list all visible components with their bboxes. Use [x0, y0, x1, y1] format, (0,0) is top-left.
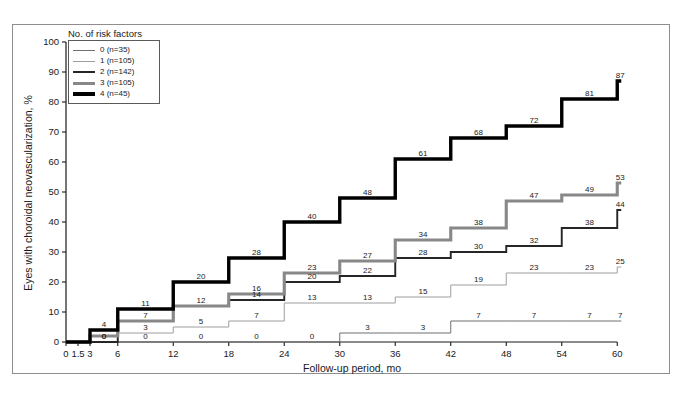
- legend-swatch-icon: [73, 92, 95, 95]
- data-label: 7: [254, 311, 259, 320]
- data-label: 20: [197, 272, 206, 281]
- data-label: 23: [530, 263, 539, 272]
- legend-title: No. of risk factors: [68, 28, 142, 39]
- legend-entry-0: 0 (n=35): [73, 45, 155, 55]
- data-label: 3: [421, 323, 426, 332]
- legend-swatch-icon: [73, 61, 95, 62]
- y-tick-label: 60: [48, 156, 59, 167]
- data-label: 7: [476, 311, 481, 320]
- legend-label: 0 (n=35): [100, 45, 130, 55]
- data-label: 27: [363, 251, 372, 260]
- data-label: 23: [585, 263, 594, 272]
- data-label: 81: [585, 89, 594, 98]
- legend-entry-1: 1 (n=105): [73, 56, 155, 66]
- x-tick-label: 3: [87, 348, 92, 359]
- data-label: 38: [474, 218, 483, 227]
- data-label: 68: [474, 128, 483, 137]
- data-label: 72: [530, 116, 539, 125]
- y-tick-label: 0: [54, 336, 59, 347]
- series-line-0: [66, 321, 621, 342]
- legend-entry-4: 4 (n=45): [73, 89, 155, 99]
- data-label: 22: [363, 266, 372, 275]
- data-label: 28: [252, 248, 261, 257]
- data-label: 3: [365, 323, 370, 332]
- data-label: 47: [530, 191, 539, 200]
- y-tick-label: 20: [48, 276, 59, 287]
- x-tick-label: 54: [556, 348, 567, 359]
- data-label: 61: [419, 149, 428, 158]
- x-tick-label: 0: [63, 348, 68, 359]
- data-label: 19: [474, 275, 483, 284]
- data-label: 4: [102, 320, 107, 329]
- data-labels-layer: 0000033777735713131519232325071214202228…: [102, 71, 626, 341]
- x-tick-label: 18: [223, 348, 234, 359]
- data-label: 0: [199, 332, 204, 341]
- data-label: 20: [308, 272, 317, 281]
- data-label: 32: [530, 236, 539, 245]
- x-tick-label: 30: [334, 348, 345, 359]
- data-label: 13: [363, 293, 372, 302]
- data-label: 7: [587, 311, 592, 320]
- data-label: 15: [419, 287, 428, 296]
- y-tick-label: 50: [48, 186, 59, 197]
- data-label: 0: [143, 332, 148, 341]
- data-label: 44: [616, 200, 625, 209]
- x-tick-label: 24: [279, 348, 290, 359]
- data-label: 7: [143, 311, 148, 320]
- legend-entry-2: 2 (n=142): [73, 67, 155, 77]
- data-label: 13: [308, 293, 317, 302]
- legend-swatch-icon: [73, 50, 95, 51]
- data-label: 0: [310, 332, 315, 341]
- data-label: 0: [102, 332, 107, 341]
- x-tick-label: 42: [445, 348, 456, 359]
- data-label: 7: [618, 311, 623, 320]
- data-label: 38: [585, 218, 594, 227]
- y-tick-label: 40: [48, 216, 59, 227]
- legend-label: 2 (n=142): [100, 67, 134, 77]
- x-tick-label: 6: [115, 348, 120, 359]
- legend-entry-3: 3 (n=105): [73, 78, 155, 88]
- data-label: 0: [254, 332, 259, 341]
- data-label: 87: [616, 71, 625, 80]
- x-tick-label: 60: [612, 348, 623, 359]
- y-tick-label: 70: [48, 126, 59, 137]
- data-label: 53: [616, 173, 625, 182]
- y-tick-label: 80: [48, 96, 59, 107]
- chart-figure: 010203040506070809010001.536121824303642…: [0, 0, 678, 403]
- legend-label: 3 (n=105): [100, 78, 134, 88]
- data-label: 3: [143, 323, 148, 332]
- x-tick-label: 36: [390, 348, 401, 359]
- data-label: 25: [616, 257, 625, 266]
- y-tick-label: 30: [48, 246, 59, 257]
- data-label: 12: [197, 296, 206, 305]
- legend-swatch-icon: [73, 82, 95, 85]
- data-label: 5: [199, 317, 204, 326]
- data-label: 40: [308, 212, 317, 221]
- data-label: 49: [585, 185, 594, 194]
- data-label: 11: [141, 299, 150, 308]
- x-tick-label: 12: [168, 348, 179, 359]
- data-label: 16: [252, 284, 261, 293]
- legend-box: 0 (n=35)1 (n=105)2 (n=142)3 (n=105)4 (n=…: [68, 40, 160, 104]
- legend-swatch-icon: [73, 71, 95, 73]
- data-label: 23: [308, 263, 317, 272]
- y-tick-label: 90: [48, 66, 59, 77]
- y-axis-title: Eyes with choroidal neovascularization, …: [22, 95, 34, 291]
- y-tick-label: 10: [48, 306, 59, 317]
- data-label: 7: [532, 311, 537, 320]
- legend-label: 1 (n=105): [100, 56, 134, 66]
- x-tick-label: 1.5: [71, 348, 84, 359]
- data-label: 34: [419, 230, 428, 239]
- x-axis-title: Follow-up period, mo: [303, 362, 401, 374]
- x-tick-label: 48: [501, 348, 512, 359]
- data-label: 28: [419, 248, 428, 257]
- data-label: 30: [474, 242, 483, 251]
- legend-label: 4 (n=45): [100, 89, 130, 99]
- data-label: 48: [363, 188, 372, 197]
- y-tick-label: 100: [43, 36, 59, 47]
